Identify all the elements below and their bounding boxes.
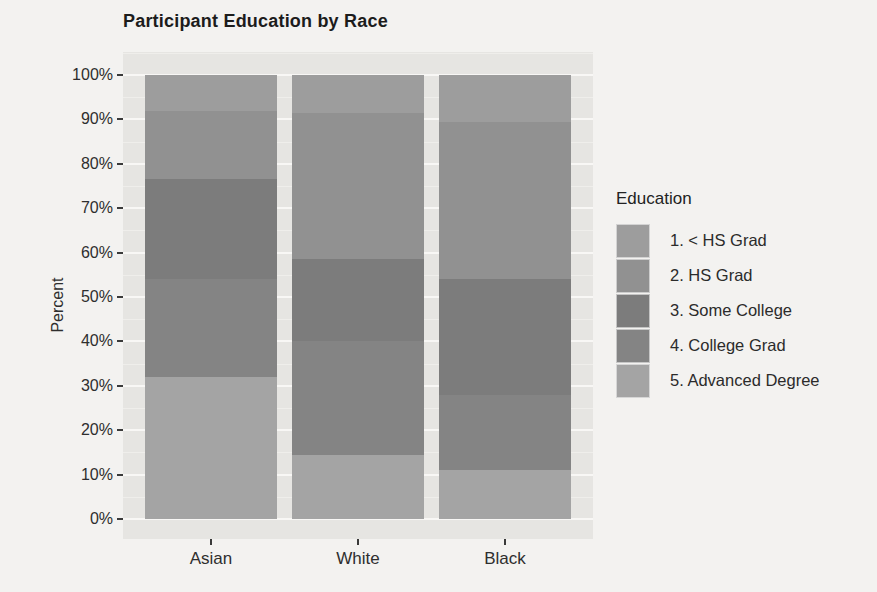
legend-item-2-hs-grad: 2. HS Grad: [616, 258, 820, 293]
bar-segment-black-3-some-college: [439, 279, 571, 394]
plot-panel: [123, 52, 593, 539]
bar-segment-asian-4-college-grad: [145, 279, 277, 377]
y-tick-mark: [117, 163, 123, 165]
chart-figure: Participant Education by Race Percent 0%…: [0, 0, 877, 592]
legend-item-5-advanced-degree: 5. Advanced Degree: [616, 363, 820, 398]
legend-item-label: 3. Some College: [670, 301, 792, 320]
legend-item-label: 2. HS Grad: [670, 266, 753, 285]
bar-segment-white-5-advanced-degree: [292, 455, 424, 519]
x-tick-mark: [210, 539, 212, 545]
bar-segment-black-1-hs-grad: [439, 75, 571, 122]
y-tick-label-20: 20%: [61, 422, 113, 438]
y-tick-label-100: 100%: [61, 67, 113, 83]
y-axis-title: Percent: [49, 277, 67, 332]
legend-item-label: 5. Advanced Degree: [670, 371, 820, 390]
bar-segment-white-4-college-grad: [292, 341, 424, 454]
y-tick-mark: [117, 340, 123, 342]
legend-items: 1. < HS Grad2. HS Grad3. Some College4. …: [616, 223, 820, 398]
y-tick-label-70: 70%: [61, 200, 113, 216]
legend-title: Education: [616, 189, 820, 209]
x-tick-label-white: White: [313, 549, 403, 569]
x-tick-label-black: Black: [460, 549, 550, 569]
bar-segment-white-2-hs-grad: [292, 113, 424, 260]
legend-swatch: [616, 224, 650, 258]
y-tick-label-0: 0%: [61, 511, 113, 527]
legend-item-3-some-college: 3. Some College: [616, 293, 820, 328]
legend-item-label: 1. < HS Grad: [670, 231, 767, 250]
legend-item-label: 4. College Grad: [670, 336, 786, 355]
y-tick-mark: [117, 74, 123, 76]
x-tick-mark: [504, 539, 506, 545]
y-tick-label-80: 80%: [61, 156, 113, 172]
y-tick-mark: [117, 118, 123, 120]
bar-segment-black-5-advanced-degree: [439, 470, 571, 519]
bar-segment-asian-2-hs-grad: [145, 111, 277, 180]
y-tick-mark: [117, 518, 123, 520]
x-tick-mark: [357, 539, 359, 545]
bar-segment-white-1-hs-grad: [292, 75, 424, 113]
y-tick-mark: [117, 252, 123, 254]
legend-swatch: [616, 329, 650, 363]
y-tick-label-90: 90%: [61, 111, 113, 127]
legend-swatch: [616, 294, 650, 328]
legend-item-1-hs-grad: 1. < HS Grad: [616, 223, 820, 258]
bar-segment-asian-1-hs-grad: [145, 75, 277, 111]
y-tick-mark: [117, 385, 123, 387]
gridline-minor: [123, 53, 593, 54]
bar-segment-black-4-college-grad: [439, 395, 571, 470]
y-tick-label-10: 10%: [61, 467, 113, 483]
y-tick-mark: [117, 474, 123, 476]
bar-segment-black-2-hs-grad: [439, 122, 571, 280]
legend-swatch: [616, 259, 650, 293]
legend: Education 1. < HS Grad2. HS Grad3. Some …: [616, 189, 820, 398]
bar-segment-asian-3-some-college: [145, 179, 277, 279]
y-tick-label-30: 30%: [61, 378, 113, 394]
y-tick-label-60: 60%: [61, 245, 113, 261]
legend-swatch: [616, 364, 650, 398]
bar-segment-asian-5-advanced-degree: [145, 377, 277, 519]
legend-item-4-college-grad: 4. College Grad: [616, 328, 820, 363]
y-tick-label-40: 40%: [61, 333, 113, 349]
y-tick-mark: [117, 429, 123, 431]
y-tick-mark: [117, 296, 123, 298]
x-tick-label-asian: Asian: [166, 549, 256, 569]
bar-segment-white-3-some-college: [292, 259, 424, 341]
chart-title: Participant Education by Race: [123, 11, 388, 32]
y-tick-label-50: 50%: [61, 289, 113, 305]
y-tick-mark: [117, 207, 123, 209]
